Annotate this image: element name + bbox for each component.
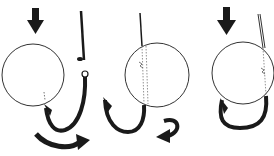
hook-icon: [44, 11, 88, 131]
down-arrow-icon: [27, 8, 44, 34]
illustration-canvas: [0, 0, 274, 156]
panel-3: [212, 7, 274, 128]
curved-arrow-back-icon: [156, 120, 177, 143]
panel-2: [103, 13, 189, 143]
panel-1: [2, 8, 90, 150]
hook-through-bait: [103, 46, 148, 132]
bait-circle: [2, 44, 64, 106]
hook-threaded: [220, 48, 266, 128]
bait-circle: [125, 43, 189, 107]
down-arrow-icon: [217, 7, 236, 35]
hook-baiting-illustration: [0, 0, 274, 156]
curved-arrow-right-icon: [36, 134, 90, 150]
